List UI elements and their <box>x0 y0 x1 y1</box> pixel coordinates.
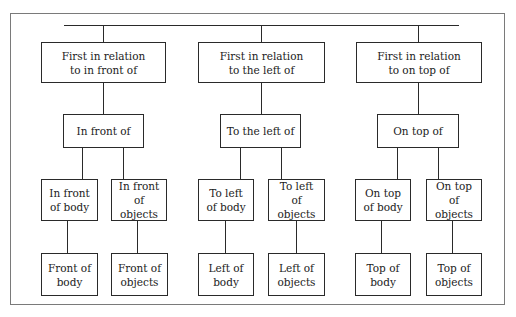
connector <box>397 148 398 179</box>
node-label: Front of body <box>48 261 91 289</box>
node-on-top-of-body: On top of body <box>355 179 411 221</box>
node-label: First in relation to the left of <box>220 49 304 77</box>
node-label: Top of body <box>367 261 400 289</box>
connector <box>261 83 262 115</box>
node-top-of-objects: Top of objects <box>426 253 482 296</box>
node-in-front-of-objects: In front of objects <box>111 179 167 221</box>
node-label: To the left of <box>227 124 295 138</box>
node-label: First in relation to on top of <box>377 49 461 77</box>
connector <box>82 148 83 179</box>
node-left-of-objects: Left of objects <box>268 253 325 296</box>
connector <box>103 83 104 115</box>
node-label: Top of objects <box>435 261 473 289</box>
connector <box>123 148 124 179</box>
connector <box>67 221 68 254</box>
node-label: On top of <box>393 124 443 138</box>
connector <box>281 148 282 179</box>
node-label: On top of objects <box>429 179 479 221</box>
node-front-of-body: Front of body <box>41 253 98 296</box>
node-label: In front of <box>76 124 130 138</box>
connector <box>261 25 262 43</box>
connector <box>240 148 241 179</box>
connector <box>438 148 439 179</box>
node-label: Front of objects <box>118 261 161 289</box>
node-first-in-relation-in-front-of: First in relation to in front of <box>41 42 166 83</box>
node-label: Left of objects <box>277 261 315 289</box>
node-in-front-of: In front of <box>63 114 144 148</box>
node-label: In front of objects <box>114 179 164 221</box>
connector <box>418 83 419 115</box>
node-front-of-objects: Front of objects <box>111 253 168 296</box>
node-top-of-body: Top of body <box>355 253 411 296</box>
node-left-of-body: Left of body <box>198 253 254 296</box>
node-label: On top of body <box>363 186 402 214</box>
node-first-in-relation-on-top-of: First in relation to on top of <box>356 42 482 83</box>
node-label: To left of body <box>206 186 245 214</box>
node-label: To left of objects <box>271 179 322 221</box>
node-label: In front of body <box>49 186 89 214</box>
connector <box>137 221 138 254</box>
node-label: Left of body <box>209 261 244 289</box>
connector <box>381 221 382 254</box>
node-label: First in relation to in front of <box>62 49 146 77</box>
node-first-in-relation-left-of: First in relation to the left of <box>198 42 325 83</box>
node-in-front-of-body: In front of body <box>41 179 98 221</box>
connector <box>103 25 104 43</box>
connector <box>418 25 419 43</box>
connector <box>296 221 297 254</box>
node-to-the-left-of: To the left of <box>220 114 301 148</box>
connector <box>225 221 226 254</box>
node-on-top-of: On top of <box>377 114 459 148</box>
connector <box>452 221 453 254</box>
node-to-left-of-body: To left of body <box>198 179 254 221</box>
node-on-top-of-objects: On top of objects <box>426 179 482 221</box>
node-to-left-of-objects: To left of objects <box>268 179 325 221</box>
